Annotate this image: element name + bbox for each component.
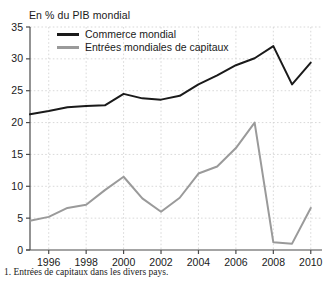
y-tick-label-30: 30 (3, 52, 23, 64)
chart-footnote: 1. Entrées de capitaux dans les divers p… (4, 267, 168, 277)
x-tick-label-2010: 2010 (294, 256, 326, 268)
x-tick-label-2008: 2008 (256, 256, 290, 268)
y-tick-label-25: 25 (3, 84, 23, 96)
x-tick-label-2006: 2006 (219, 256, 253, 268)
chart-series-lines (30, 46, 311, 244)
legend-swatch-entrees-capitaux (57, 46, 79, 49)
chart-title: En % du PIB mondial (29, 9, 130, 21)
chart-figure: En % du PIB mondial Commerce mondial Ent… (0, 0, 326, 284)
legend-label-commerce-mondial: Commerce mondial (85, 28, 176, 41)
legend-swatch-commerce-mondial (57, 33, 79, 36)
legend-item-commerce-mondial: Commerce mondial (57, 28, 229, 41)
y-tick-label-10: 10 (3, 180, 23, 192)
y-tick-label-0: 0 (3, 244, 23, 256)
chart-gridlines (30, 27, 322, 250)
y-tick-label-5: 5 (3, 212, 23, 224)
legend-item-entrees-capitaux: Entrées mondiales de capitaux (57, 41, 229, 54)
chart-axis-ticks (26, 27, 311, 254)
chart-legend: Commerce mondial Entrées mondiales de ca… (57, 28, 229, 54)
legend-label-entrees-capitaux: Entrées mondiales de capitaux (85, 41, 229, 54)
series-line-commerce-mondial (30, 46, 311, 114)
series-line-entrees-capitaux (30, 123, 311, 244)
chart-axes (26, 27, 322, 250)
y-tick-label-20: 20 (3, 116, 23, 128)
y-tick-label-35: 35 (3, 21, 23, 33)
y-tick-label-15: 15 (3, 148, 23, 160)
x-tick-label-2004: 2004 (181, 256, 215, 268)
